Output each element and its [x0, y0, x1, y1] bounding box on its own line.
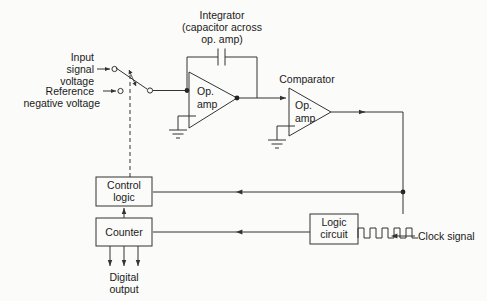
- control-logic-line2: logic: [113, 191, 135, 203]
- switch-blade[interactable]: [116, 68, 147, 89]
- integrator-output-node: [235, 96, 240, 101]
- input-signal-line1: Input: [71, 51, 94, 63]
- input-signal-line2: signal: [67, 63, 94, 75]
- clock-signal-label: Clock signal: [418, 230, 475, 242]
- control-logic-line1: Control: [107, 179, 141, 191]
- diagram-canvas: Input signal voltage Reference negative …: [0, 0, 487, 301]
- reference-voltage-wire: [103, 88, 123, 93]
- logic-circuit-line2: circuit: [320, 228, 348, 240]
- reference-line1: Reference: [46, 85, 95, 97]
- input-signal-wire: [97, 66, 117, 71]
- control-logic-block[interactable]: Control logic: [96, 177, 152, 206]
- comparator-op-amp: Op. amp: [289, 88, 331, 136]
- reference-voltage-terminal: [118, 88, 123, 93]
- counter-block[interactable]: Counter: [96, 218, 152, 246]
- counter-label: Counter: [105, 226, 143, 238]
- integrator-line1: Integrator: [200, 9, 245, 21]
- digital-output-line2: output: [109, 283, 138, 295]
- counter-feedback-wire: [153, 230, 310, 235]
- integrator-ground: [169, 116, 196, 138]
- comparator-ground: [268, 126, 295, 148]
- input-signal-label: Input signal voltage: [60, 51, 94, 87]
- integrator-line2: (capacitor across: [182, 21, 262, 33]
- switch-common-terminal: [147, 88, 152, 93]
- comparator-op-amp-line2: amp: [295, 112, 316, 124]
- reference-voltage-label: Reference negative voltage: [24, 85, 101, 109]
- digital-output-label: Digital output: [109, 271, 138, 295]
- reference-line2: negative voltage: [24, 97, 101, 109]
- counter-feedback-arrow: [236, 230, 242, 235]
- integrator-op-amp-line1: Op.: [197, 85, 214, 97]
- control-logic-feedback-wire: [153, 190, 403, 195]
- integrator-op-amp-line2: amp: [197, 98, 218, 110]
- digital-output-lines: [110, 246, 138, 266]
- input-signal-terminal: [112, 66, 117, 71]
- logic-circuit-line1: Logic: [321, 216, 346, 228]
- integrator-line3: op. amp): [201, 33, 242, 45]
- comparator-output-route: [331, 112, 403, 192]
- comparator-label: Comparator: [279, 73, 335, 85]
- comparator-op-amp-line1: Op.: [295, 99, 312, 111]
- circuit-diagram: Input signal voltage Reference negative …: [0, 0, 487, 301]
- integrator-label: Integrator (capacitor across op. amp): [182, 9, 262, 45]
- integrator-op-amp: Op. amp: [189, 72, 237, 128]
- logic-circuit-block[interactable]: Logic circuit: [310, 214, 358, 244]
- digital-output-line1: Digital: [109, 271, 138, 283]
- control-logic-feedback-arrow: [236, 190, 242, 195]
